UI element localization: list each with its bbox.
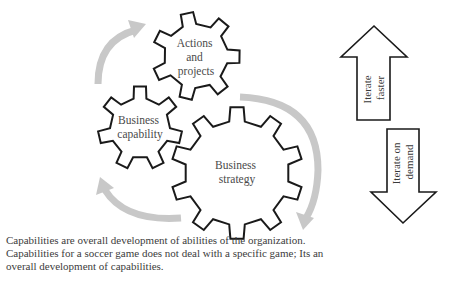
- svg-text:Iterate faster: Iterate faster: [361, 73, 386, 104]
- iterate-faster-arrow: Iterate faster: [341, 26, 407, 120]
- caption: Capabilities are overall development of …: [6, 234, 456, 273]
- caption-line: overall development of capabilities.: [6, 260, 456, 273]
- svg-text:Iterate on demand: Iterate on demand: [390, 140, 415, 185]
- arrow-label-line: demand: [403, 144, 415, 179]
- gear-label-line: capability: [117, 128, 163, 141]
- gear-label-line: strategy: [219, 173, 256, 186]
- gear-label-line: projects: [178, 65, 215, 78]
- cycle-arrow-strategy-to-capability: [96, 177, 181, 218]
- svg-text:Business strategy: Business strategy: [215, 159, 259, 186]
- svg-text:Business capability: Business capability: [117, 114, 163, 141]
- iterate-on-demand-arrow: Iterate on demand: [371, 129, 436, 223]
- cycle-arrow-capability-to-actions: [98, 20, 146, 84]
- gear-label-line: Business: [118, 114, 159, 126]
- arrow-label-line: Iterate on: [390, 142, 402, 184]
- arrow-label-line: faster: [374, 75, 386, 100]
- gear-label-line: and: [186, 51, 203, 63]
- gear-business-capability: Business capability: [98, 86, 182, 168]
- gear-label-line: Business: [215, 159, 256, 171]
- gear-label-line: Actions: [177, 37, 213, 49]
- caption-line: Capabilities are overall development of …: [6, 234, 456, 247]
- gear-actions-and-projects: Actions and projects: [154, 12, 240, 100]
- gear-business-strategy: Business strategy: [173, 107, 302, 238]
- arrow-label-line: Iterate: [361, 75, 373, 103]
- caption-line: Capabilities for a soccer game does not …: [6, 247, 456, 260]
